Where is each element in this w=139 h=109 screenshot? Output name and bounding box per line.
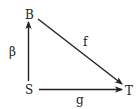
edge-beta-label: β	[9, 46, 16, 58]
arrow-f-b-to-t	[38, 19, 122, 84]
edge-f-label: f	[83, 36, 87, 48]
commutative-diagram: B S T β f g	[0, 0, 139, 109]
node-b-label: B	[25, 9, 34, 21]
node-s-label: S	[25, 84, 33, 96]
diagram-arrows	[0, 0, 139, 109]
node-t-label: T	[125, 85, 133, 97]
edge-g-label: g	[76, 94, 84, 106]
